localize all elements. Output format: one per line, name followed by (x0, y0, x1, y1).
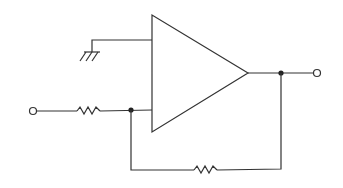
ground-icon (80, 52, 100, 61)
output-terminal (314, 70, 321, 77)
feedback-resistor-icon (194, 166, 217, 173)
input-terminal (30, 108, 37, 115)
input-wire-right (100, 110, 152, 111)
op-amp-triangle (152, 15, 248, 132)
ground-wire (92, 40, 152, 52)
feedback-wire-left (131, 110, 194, 170)
input-resistor-icon (77, 107, 100, 114)
inverting-amplifier-schematic (0, 0, 343, 188)
feedback-wire-right (217, 73, 281, 170)
